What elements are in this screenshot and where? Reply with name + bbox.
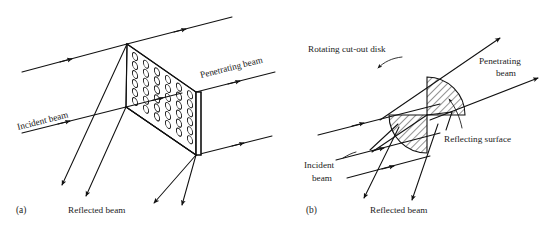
panel-b-reflecting-label: Reflecting surface bbox=[444, 134, 511, 144]
incident-ray-b3-arrow bbox=[382, 166, 394, 169]
incident-ray-b1-arrow bbox=[352, 123, 364, 126]
disk-sector-lower-left bbox=[389, 115, 427, 153]
optical-chopper-figure: Incident beam Penetrating beam Reflected… bbox=[0, 0, 545, 227]
incident-ray-upper-arrow bbox=[60, 59, 72, 62]
reflected-ray-b1 bbox=[364, 127, 399, 198]
reflected-ray-a1 bbox=[62, 44, 127, 185]
penetrating-ray-upper-arrow bbox=[174, 29, 186, 32]
incident-ray-upper bbox=[22, 44, 127, 72]
panel-a-group: Incident beam Penetrating beam Reflected… bbox=[16, 17, 275, 216]
panel-b-caption: (b) bbox=[306, 205, 317, 216]
disk-rotation-arrow bbox=[378, 57, 402, 68]
panel-b-incident-label-line1: Incident bbox=[304, 160, 335, 170]
disk-sector-upper-right bbox=[427, 77, 465, 115]
panel-b-penetrating-label-line1: Penetrating bbox=[479, 56, 521, 66]
panel-a-caption: (a) bbox=[16, 205, 26, 216]
panel-b-group: Rotating cut-out disk Penetrating beam R… bbox=[304, 38, 538, 216]
panel-b-incident-label-line2: beam bbox=[312, 173, 332, 183]
panel-a-reflected-label: Reflected beam bbox=[68, 205, 125, 215]
panel-b-disk-label: Rotating cut-out disk bbox=[308, 44, 386, 54]
penetrating-ray-lower-arrow bbox=[232, 143, 244, 146]
panel-a-penetrating-label: Penetrating beam bbox=[199, 55, 264, 80]
figure-root: Incident beam Penetrating beam Reflected… bbox=[0, 0, 545, 227]
perforated-plate-side bbox=[196, 92, 201, 155]
penetrating-ray-mid-arrow bbox=[228, 81, 240, 84]
panel-a-incident-label: Incident beam bbox=[16, 110, 69, 132]
panel-b-penetrating-label-line2: beam bbox=[496, 68, 516, 78]
panel-b-reflected-label: Reflected beam bbox=[370, 205, 427, 215]
